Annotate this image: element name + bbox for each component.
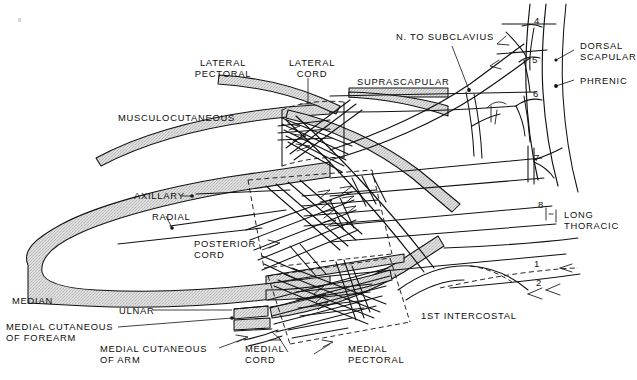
- label-posterior-cord: POSTERIOR CORD: [194, 239, 256, 260]
- label-medial-pectoral: MEDIAL PECTORAL: [348, 344, 404, 365]
- label-suprascapular: SUPRASCAPULAR: [357, 77, 450, 88]
- label-medial-cutaneous-of-arm: MEDIAL CUTANEOUS OF ARM: [100, 344, 207, 365]
- label-radial: RADIAL: [152, 212, 190, 223]
- corner-speck: [18, 18, 21, 22]
- label-median: MEDIAN: [12, 296, 53, 307]
- label-ulnar: ULNAR: [119, 306, 155, 317]
- label-axillary: AXILLARY: [134, 191, 185, 202]
- label-lateral-pectoral: LATERAL PECTORAL: [178, 58, 268, 79]
- label-medial-cord: MEDIAL CORD: [245, 344, 284, 365]
- root-number-c7: 7: [534, 152, 540, 163]
- root-number-c8: 8: [538, 199, 544, 210]
- label-first-intercostal: 1ST INTERCOSTAL: [421, 311, 517, 322]
- root-number-c6: 6: [533, 88, 539, 99]
- root-number-t2: 2: [536, 277, 542, 288]
- label-dorsal-scapular: DORSAL SCAPULAR: [580, 41, 637, 62]
- root-number-c5: 5: [532, 54, 538, 65]
- label-medial-cutaneous-of-forearm: MEDIAL CUTANEOUS OF FOREARM: [6, 322, 113, 343]
- root-number-t1: 1: [534, 258, 540, 269]
- root-number-c4: 4: [534, 15, 540, 26]
- label-phrenic: PHRENIC: [580, 76, 627, 87]
- label-long-thoracic: LONG THORACIC: [564, 210, 619, 231]
- label-musculocutaneous: MUSCULOCUTANEOUS: [118, 113, 235, 124]
- label-lateral-cord: LATERAL CORD: [285, 58, 339, 79]
- label-n-to-subclavius: N. TO SUBCLAVIUS: [396, 32, 494, 43]
